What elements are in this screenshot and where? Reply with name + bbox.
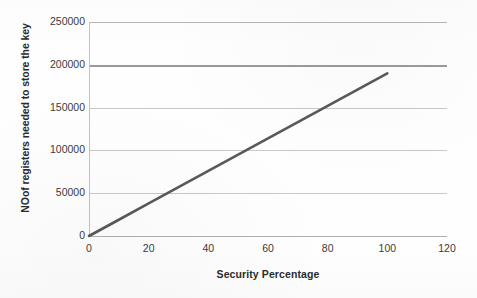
series-line-group	[89, 22, 447, 236]
plot-area	[89, 22, 447, 236]
y-axis-tick-label: 100000	[33, 144, 85, 155]
x-axis-tick-label: 0	[69, 242, 109, 254]
x-axis-tick-label: 20	[129, 242, 169, 254]
x-axis-tick-label: 80	[308, 242, 348, 254]
series-line-registers	[89, 73, 387, 236]
y-axis-tick-label: 0	[33, 230, 85, 241]
y-axis-tick-label: 250000	[33, 16, 85, 27]
y-axis-tick-label: 50000	[33, 187, 85, 198]
x-axis-line	[89, 236, 447, 237]
x-axis-title: Security Percentage	[89, 268, 447, 280]
x-axis-tick-label: 60	[248, 242, 288, 254]
y-axis-tick-label: 200000	[33, 59, 85, 70]
chart-figure: NOof registers needed to store the key 0…	[0, 0, 477, 298]
x-axis-tick-label-group: 020406080100120	[89, 242, 447, 258]
x-axis-tick-label: 120	[427, 242, 467, 254]
x-axis-tick-label: 100	[367, 242, 407, 254]
y-axis-tick-label: 150000	[33, 102, 85, 113]
x-axis-tick-label: 40	[188, 242, 228, 254]
